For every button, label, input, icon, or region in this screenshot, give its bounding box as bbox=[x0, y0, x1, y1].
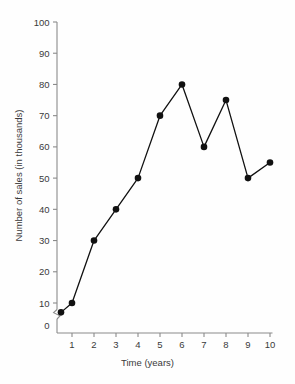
y-axis-title: Number of sales (in thousands) bbox=[13, 76, 24, 276]
data-point-marker bbox=[179, 81, 186, 88]
y-axis-tick-label: 70 bbox=[39, 110, 50, 121]
x-axis-tick-label: 4 bbox=[135, 339, 140, 350]
y-axis-tick-labels: 0102030405060708090100 bbox=[34, 17, 50, 331]
y-axis-tick-label: 20 bbox=[39, 266, 50, 277]
x-axis-tick-label: 1 bbox=[69, 339, 74, 350]
x-axis-tick-label: 8 bbox=[223, 339, 228, 350]
x-axis-tick-label: 6 bbox=[179, 339, 184, 350]
y-axis-tick-label: 80 bbox=[39, 79, 50, 90]
y-axis-tick-label: 100 bbox=[34, 17, 50, 28]
x-axis-tick-label: 7 bbox=[201, 339, 206, 350]
data-point-marker bbox=[58, 309, 65, 316]
data-point-marker bbox=[223, 97, 230, 104]
chart-figure: 0102030405060708090100 12345678910 Time … bbox=[0, 0, 295, 384]
data-point-marker bbox=[69, 300, 76, 307]
line-chart-plot: 0102030405060708090100 12345678910 bbox=[0, 0, 295, 384]
data-series-markers bbox=[58, 81, 274, 316]
data-point-marker bbox=[245, 175, 252, 182]
x-axis-tick-label: 10 bbox=[265, 339, 276, 350]
y-axis-tick-label: 10 bbox=[39, 298, 50, 309]
data-point-marker bbox=[201, 144, 208, 151]
x-axis-tick-label: 2 bbox=[91, 339, 96, 350]
x-axis-tick-label: 9 bbox=[245, 339, 250, 350]
data-point-marker bbox=[113, 206, 120, 213]
y-axis-tick-label: 50 bbox=[39, 173, 50, 184]
data-point-marker bbox=[267, 159, 274, 166]
y-axis-tick-label: 40 bbox=[39, 204, 50, 215]
y-axis-tick-label: 30 bbox=[39, 235, 50, 246]
x-axis-tick-label: 5 bbox=[157, 339, 162, 350]
y-axis-tick-label: 60 bbox=[39, 141, 50, 152]
data-series-line bbox=[61, 84, 270, 312]
data-point-marker bbox=[91, 237, 98, 244]
x-axis-tick-marks bbox=[72, 333, 270, 337]
y-axis-tick-label: 0 bbox=[44, 320, 49, 331]
x-axis-tick-label: 3 bbox=[113, 339, 118, 350]
x-axis-title: Time (years) bbox=[0, 357, 295, 368]
data-point-marker bbox=[157, 112, 164, 119]
y-axis-tick-label: 90 bbox=[39, 48, 50, 59]
x-axis-tick-labels: 12345678910 bbox=[69, 339, 275, 350]
y-axis-tick-marks bbox=[53, 22, 57, 303]
data-point-marker bbox=[135, 175, 142, 182]
